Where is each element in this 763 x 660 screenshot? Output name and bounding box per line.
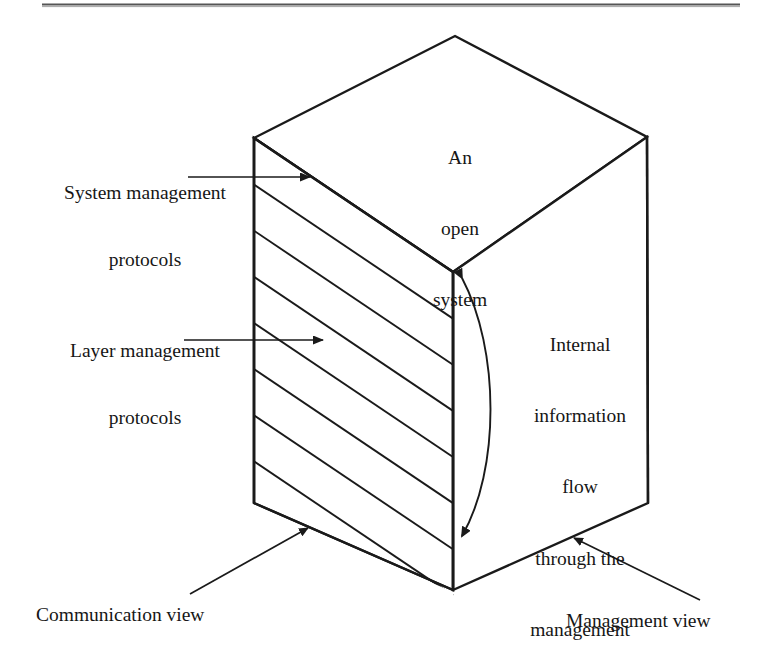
label-open-system-line2: open bbox=[390, 217, 530, 241]
figure-root: System management protocols Layer manage… bbox=[0, 0, 763, 660]
label-internal-flow-line4: through the bbox=[500, 547, 660, 571]
label-system-management-line1: System management bbox=[30, 182, 260, 204]
label-layer-management-line2: protocols bbox=[30, 407, 260, 429]
label-management-view: Management view bbox=[566, 610, 711, 632]
label-open-system-line1: An bbox=[390, 146, 530, 170]
label-internal-flow: Internal information flow through the ma… bbox=[500, 285, 660, 660]
label-communication-view: Communication view bbox=[36, 604, 204, 626]
label-system-management-line2: protocols bbox=[30, 249, 260, 271]
label-layer-management-line1: Layer management bbox=[30, 340, 260, 362]
label-internal-flow-line2: information bbox=[500, 404, 660, 428]
label-layer-management: Layer management protocols bbox=[30, 296, 260, 474]
communication-view-arrow bbox=[190, 528, 308, 594]
top-divider-rule bbox=[42, 5, 740, 7]
label-system-management: System management protocols bbox=[30, 138, 260, 316]
label-internal-flow-line3: flow bbox=[500, 475, 660, 499]
label-internal-flow-line1: Internal bbox=[500, 333, 660, 357]
